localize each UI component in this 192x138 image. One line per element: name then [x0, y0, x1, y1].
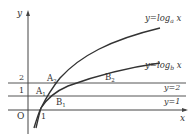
point-A1: A1 [35, 86, 46, 97]
point-B2: B2 [105, 72, 115, 83]
y-axis-arrow-icon [26, 10, 30, 16]
point-B1: B1 [56, 97, 66, 108]
y-tick-1: 1 [19, 86, 24, 95]
x-axis-label: x [180, 113, 185, 123]
origin-label: O [17, 111, 24, 121]
y-axis-label: y [16, 8, 23, 18]
curve-log-b-label: y=logb x [144, 60, 182, 71]
curve-b-prefix: y=log [144, 60, 171, 70]
curve-b-var: x [174, 60, 182, 70]
curve-a-var: x [174, 13, 182, 23]
A2-sub: 2 [53, 78, 57, 84]
curve-a-prefix: y=log [144, 13, 171, 23]
B2-sub: 2 [111, 77, 115, 83]
point-A2: A2 [46, 73, 57, 84]
log-diagram: y x O 1 2 1 y=loga x y=logb x y=2 y=1 A2… [0, 0, 192, 138]
x-axis-arrow-icon [182, 108, 188, 112]
curve-log-a-label: y=loga x [144, 13, 181, 24]
line-y1-label: y=1 [163, 97, 180, 106]
line-y2-label: y=2 [163, 83, 180, 92]
B1-sub: 1 [62, 102, 66, 108]
A1-sub: 1 [42, 91, 46, 97]
x-tick-1: 1 [41, 112, 46, 121]
y-tick-2: 2 [19, 73, 24, 82]
